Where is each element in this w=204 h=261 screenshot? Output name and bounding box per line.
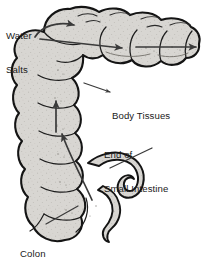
label-water-salts-line2: Salts: [6, 64, 32, 75]
label-end-small-intestine-line2: Small Intestine: [104, 183, 168, 194]
label-colon-line1: Colon: [20, 248, 46, 259]
label-water-salts-line1: Water: [6, 30, 32, 41]
label-end-small-intestine-line1: End of: [104, 149, 168, 160]
body-tissues-leader-arrow: [84, 83, 110, 92]
label-end-of-small-intestine: End of Small Intestine: [104, 127, 168, 217]
label-water-salts: Water Salts: [6, 8, 32, 98]
label-body-tissues-line1: Body Tissues: [112, 110, 170, 121]
label-colon: Colon: [20, 226, 46, 261]
